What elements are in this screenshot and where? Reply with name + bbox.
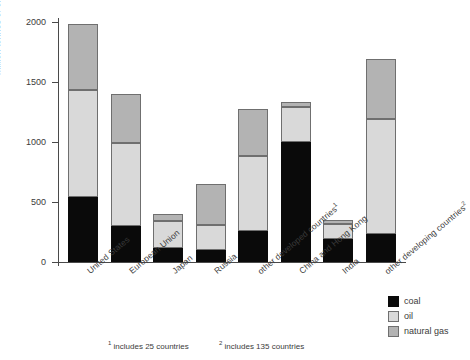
bar-segment-gas: [281, 102, 311, 107]
bar-united-states[interactable]: [68, 24, 98, 262]
footnote-1-text: includes 25 countries: [114, 342, 189, 351]
bar-segment-oil: [111, 143, 141, 226]
bar-segment-gas: [68, 24, 98, 89]
bar-russia[interactable]: [196, 184, 226, 262]
bar-segment-gas: [238, 109, 268, 156]
legend-label-natural-gas: natural gas: [404, 326, 449, 336]
y-tick-label-2000: 2000: [6, 17, 46, 27]
bar-segment-coal: [68, 197, 98, 262]
bar-segment-oil: [281, 107, 311, 142]
legend-item-oil: oil: [388, 310, 449, 322]
footnote-2-text: includes 135 countries: [225, 342, 305, 351]
y-tick-label-1500: 1500: [6, 77, 46, 87]
legend-swatch-coal-icon: [388, 296, 399, 307]
bar-segment-gas: [196, 184, 226, 225]
y-tick-label-500: 500: [6, 197, 46, 207]
footnote-1-marker: 1: [108, 340, 111, 346]
legend-swatch-oil-icon: [388, 311, 399, 322]
bar-segment-gas: [111, 94, 141, 143]
bar-segment-gas: [153, 214, 183, 221]
legend-label-oil: oil: [404, 311, 413, 321]
bar-segment-gas: [366, 59, 396, 119]
bar-segment-oil: [68, 90, 98, 197]
legend-label-coal: coal: [404, 296, 421, 306]
chart-legend: coal oil natural gas: [388, 295, 449, 340]
legend-swatch-natural-gas-icon: [388, 326, 399, 337]
chart-footnotes: 1 includes 25 countries 2 includes 135 c…: [108, 340, 332, 351]
bar-other-developed-countries[interactable]: [238, 109, 268, 262]
y-axis-title: million tonnes of oil equivalent: [0, 0, 2, 75]
bar-segment-coal: [366, 234, 396, 262]
y-tick-label-0: 0: [6, 257, 46, 267]
bar-segment-oil: [196, 225, 226, 250]
bar-segment-oil: [366, 119, 396, 234]
bar-segment-coal: [238, 231, 268, 262]
legend-item-natural-gas: natural gas: [388, 325, 449, 337]
legend-item-coal: coal: [388, 295, 449, 307]
bar-segment-oil: [238, 156, 268, 232]
footnote-1: 1 includes 25 countries: [108, 342, 189, 351]
y-tick-0: [52, 262, 58, 263]
footnote-2: 2 includes 135 countries: [219, 342, 304, 351]
footnote-2-marker: 2: [219, 340, 222, 346]
y-tick-label-1000: 1000: [6, 137, 46, 147]
bar-other-developing-countries[interactable]: [366, 59, 396, 262]
